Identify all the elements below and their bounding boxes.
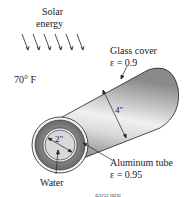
inner-diameter-label: 2" (55, 134, 63, 145)
glass-cover-label: Glass cover (110, 45, 157, 56)
glass-cover-emissivity: ε = 0.9 (110, 57, 137, 68)
ambient-temperature-label: 70° F (14, 74, 36, 85)
aluminum-tube-emissivity: ε = 0.95 (110, 169, 142, 180)
solar-rays-icon (22, 34, 84, 50)
aluminum-tube-label: Aluminum tube (110, 157, 173, 168)
outer-diameter-label: 4" (115, 105, 123, 116)
water-label: Water (40, 177, 64, 188)
figure-caption: FIGURE (95, 191, 121, 197)
solar-label-line2: energy (36, 18, 63, 29)
solar-label-line1: Solar (42, 6, 63, 17)
